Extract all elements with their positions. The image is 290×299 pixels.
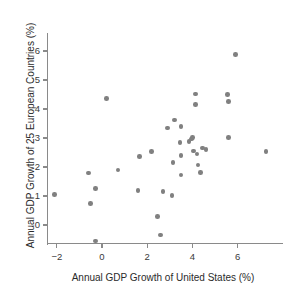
- x-tick-label: −2: [47, 252, 67, 262]
- x-tick-label: 4: [182, 252, 202, 262]
- scatter-point: [225, 92, 230, 97]
- x-tick-label: 2: [137, 252, 157, 262]
- scatter-point: [179, 173, 184, 178]
- scatter-point: [86, 171, 91, 176]
- scatter-point: [179, 124, 184, 129]
- y-tick-mark: [43, 195, 47, 196]
- scatter-point: [193, 102, 198, 107]
- scatter-point: [264, 149, 269, 154]
- scatter-point: [136, 188, 141, 193]
- scatter-point: [137, 154, 142, 159]
- y-tick-mark: [43, 166, 47, 167]
- x-tick-mark: [237, 244, 238, 248]
- scatter-point: [52, 192, 57, 197]
- scatter-point: [155, 214, 160, 219]
- scatter-point: [88, 201, 93, 206]
- scatter-point: [104, 96, 109, 101]
- scatter-point: [170, 193, 175, 198]
- y-tick-mark: [43, 108, 47, 109]
- scatter-point: [93, 186, 98, 191]
- scatter-point: [193, 92, 198, 97]
- chart-figure: 0123456 −20246 Annual GDP Growth of Unit…: [0, 0, 290, 299]
- scatter-point: [190, 135, 195, 140]
- scatter-point: [226, 135, 231, 140]
- scatter-point: [196, 163, 201, 168]
- scatter-point: [161, 189, 166, 194]
- scatter-point: [116, 168, 121, 173]
- x-tick-mark: [192, 244, 193, 248]
- y-axis-line: [47, 33, 48, 245]
- scatter-point: [198, 170, 203, 175]
- scatter-point: [178, 140, 183, 145]
- x-tick-mark: [147, 244, 148, 248]
- y-tick-mark: [43, 50, 47, 51]
- scatter-point: [195, 152, 200, 157]
- scatter-point: [179, 153, 184, 158]
- scatter-point: [158, 233, 163, 238]
- scatter-point: [165, 126, 170, 131]
- x-tick-mark: [101, 244, 102, 248]
- scatter-point: [172, 118, 177, 123]
- scatter-point: [226, 99, 231, 104]
- scatter-point: [204, 147, 209, 152]
- y-tick-mark: [43, 224, 47, 225]
- scatter-point: [93, 239, 98, 244]
- x-tick-label: 6: [228, 252, 248, 262]
- scatter-point: [171, 160, 176, 165]
- x-tick-label: 0: [92, 252, 112, 262]
- y-tick-mark: [43, 137, 47, 138]
- y-axis-title: Annual GDP Growth of 25 European Countri…: [25, 16, 36, 256]
- x-axis-title: Annual GDP Growth of United States (%): [40, 272, 286, 283]
- y-tick-mark: [43, 79, 47, 80]
- scatter-point: [149, 149, 154, 154]
- x-axis-line: [47, 243, 283, 244]
- scatter-plot-area: 0123456 −20246: [0, 0, 290, 299]
- scatter-point: [233, 52, 238, 57]
- x-tick-mark: [56, 244, 57, 248]
